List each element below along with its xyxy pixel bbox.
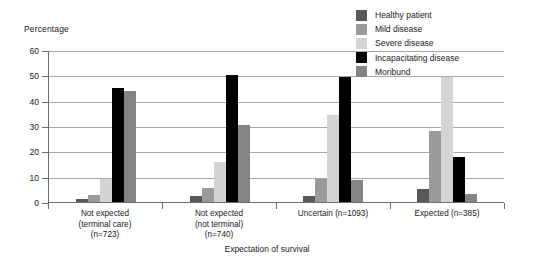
legend-label: Severe disease [375, 38, 434, 48]
x-axis-category-line: Uncertain (n=1093) [276, 209, 390, 220]
legend-label: Mild disease [375, 24, 422, 34]
x-axis-category-line: Expected (n=385) [390, 209, 504, 220]
bar [76, 199, 88, 202]
y-axis-tick-label: 40 [30, 97, 39, 106]
y-axis-tick-label: 10 [30, 173, 39, 182]
bar [112, 88, 124, 203]
bar-chart: Percentage 0102030405060 Not expected(te… [0, 0, 534, 260]
bar-group [163, 51, 277, 202]
bar [429, 131, 441, 202]
legend-swatch [356, 66, 367, 77]
x-axis-tick [504, 203, 505, 209]
legend-item: Incapacitating disease [356, 51, 459, 65]
bar [124, 91, 136, 202]
bar [351, 180, 363, 202]
x-axis-category-label: Not expected(terminal care)(n=723) [48, 209, 162, 241]
bar [190, 196, 202, 202]
bar [441, 77, 453, 202]
legend-item: Severe disease [356, 36, 459, 50]
bar [327, 115, 339, 202]
legend-label: Incapacitating disease [375, 53, 459, 63]
legend-swatch [356, 10, 367, 21]
legend-label: Moribund [375, 67, 410, 77]
bar [214, 162, 226, 202]
x-axis-category-label: Not expected(not terminal)(n=740) [162, 209, 276, 241]
bar [453, 157, 465, 202]
y-axis-tick-label: 50 [30, 72, 39, 81]
x-axis-category-label: Uncertain (n=1093) [276, 209, 390, 241]
x-axis-category-label: Expected (n=385) [390, 209, 504, 241]
bar [100, 179, 112, 202]
y-axis-tick-label: 0 [34, 199, 39, 208]
bar [315, 179, 327, 202]
bar [465, 194, 477, 202]
bar [238, 125, 250, 202]
y-axis-tick-label: 20 [30, 148, 39, 157]
x-axis-category-line: (n=740) [162, 230, 276, 241]
x-axis-category-line: Not expected [162, 209, 276, 220]
y-axis-title: Percentage [24, 24, 69, 34]
x-axis-category-line: (n=723) [48, 230, 162, 241]
bar-group [49, 51, 163, 202]
legend-swatch [356, 38, 367, 49]
x-axis-title: Expectation of survival [0, 244, 534, 254]
legend-swatch [356, 24, 367, 35]
bar [88, 195, 100, 202]
y-axis-tick-label: 60 [30, 47, 39, 56]
x-axis-category-line: Not expected [48, 209, 162, 220]
x-axis-category-line: (not terminal) [162, 220, 276, 231]
legend-label: Healthy patient [375, 10, 432, 20]
x-axis-category-line: (terminal care) [48, 220, 162, 231]
legend-item: Mild disease [356, 22, 459, 36]
bar [202, 188, 214, 202]
legend: Healthy patientMild diseaseSevere diseas… [356, 8, 459, 79]
legend-item: Healthy patient [356, 8, 459, 22]
bar [339, 77, 351, 202]
bar [417, 189, 429, 202]
y-axis-tick-label: 30 [30, 123, 39, 132]
legend-swatch [356, 52, 367, 63]
legend-item: Moribund [356, 65, 459, 79]
x-axis-labels: Not expected(terminal care)(n=723)Not ex… [48, 209, 504, 241]
bar [303, 196, 315, 202]
bar [226, 75, 238, 202]
